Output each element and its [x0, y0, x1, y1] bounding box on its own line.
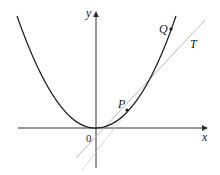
point-p-label: P [117, 97, 126, 111]
point-q-label: Q [159, 22, 168, 36]
point-p [125, 108, 128, 111]
diagram-canvas: y x 0 P Q T [0, 0, 220, 175]
y-axis-label: y [85, 6, 92, 20]
x-axis-label: x [201, 130, 208, 144]
point-q [169, 27, 172, 30]
tangent-label: T [190, 37, 198, 51]
origin-label: 0 [86, 132, 92, 144]
tangent-line [76, 20, 205, 158]
